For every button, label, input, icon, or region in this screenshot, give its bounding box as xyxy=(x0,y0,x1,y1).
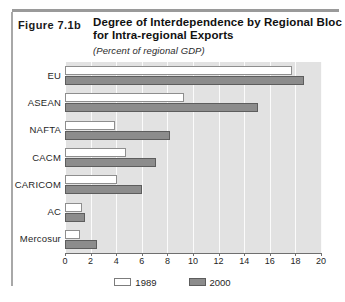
bar-row xyxy=(65,198,321,225)
bar-row xyxy=(65,117,321,144)
x-tick-label-10: 10 xyxy=(188,256,198,266)
legend-swatch-1989 xyxy=(114,278,131,286)
x-tick-label-14: 14 xyxy=(239,256,249,266)
bar-row xyxy=(65,171,321,198)
bar-eu-2000 xyxy=(65,76,304,85)
bar-cacm-2000 xyxy=(65,158,156,167)
bar-eu-1989 xyxy=(65,66,292,75)
bar-mercosur-1989 xyxy=(65,230,80,239)
y-label-asean: ASEAN xyxy=(28,97,61,108)
y-label-cacm: CACM xyxy=(32,152,61,163)
bar-chart: 02468101214161820 EUASEANNAFTACACMCARICO… xyxy=(0,0,345,302)
x-tick-label-4: 4 xyxy=(114,256,119,266)
legend-label-1989: 1989 xyxy=(135,277,156,288)
plot-area xyxy=(65,62,321,253)
x-tick-label-20: 20 xyxy=(316,256,326,266)
bar-ac-1989 xyxy=(65,203,82,212)
bar-ac-2000 xyxy=(65,213,85,222)
bar-nafta-1989 xyxy=(65,121,115,130)
y-label-mercosur: Mercosur xyxy=(20,233,61,244)
bar-mercosur-2000 xyxy=(65,240,97,249)
y-label-caricom: CARICOM xyxy=(15,179,61,190)
bar-caricom-2000 xyxy=(65,185,142,194)
x-tick-label-16: 16 xyxy=(265,256,275,266)
y-label-ac: AC xyxy=(47,206,61,217)
bar-asean-2000 xyxy=(65,103,258,112)
figure-container: Figure 7.1b Degree of Interdependence by… xyxy=(0,0,345,302)
gridline-20 xyxy=(321,62,322,253)
legend-item-1989: 1989 xyxy=(114,276,156,288)
bar-cacm-1989 xyxy=(65,148,126,157)
x-tick-label-0: 0 xyxy=(62,256,67,266)
x-tick-label-8: 8 xyxy=(165,256,170,266)
y-label-nafta: NAFTA xyxy=(30,124,61,135)
x-tick-label-12: 12 xyxy=(214,256,224,266)
bar-row xyxy=(65,62,321,89)
bar-asean-1989 xyxy=(65,93,184,102)
bar-row xyxy=(65,226,321,253)
legend-swatch-2000 xyxy=(189,278,206,286)
legend-item-2000: 2000 xyxy=(189,276,231,288)
bar-caricom-1989 xyxy=(65,175,117,184)
x-tick-label-2: 2 xyxy=(88,256,93,266)
bar-nafta-2000 xyxy=(65,131,170,140)
chart-legend: 19892000 xyxy=(0,276,345,288)
legend-label-2000: 2000 xyxy=(210,277,231,288)
y-label-eu: EU xyxy=(47,70,61,81)
x-tick-label-18: 18 xyxy=(290,256,300,266)
x-tick-label-6: 6 xyxy=(139,256,144,266)
bar-row xyxy=(65,144,321,171)
bar-row xyxy=(65,89,321,116)
